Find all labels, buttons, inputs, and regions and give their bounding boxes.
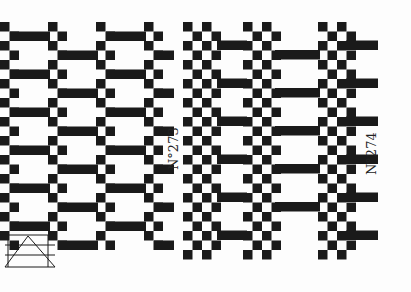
pattern-label-274: N°274 [364,132,379,175]
weave-patterns-drawing [0,0,411,292]
pattern-label-273: N°273 [166,127,181,170]
pattern-plate: N°273 N°274 [0,0,411,292]
